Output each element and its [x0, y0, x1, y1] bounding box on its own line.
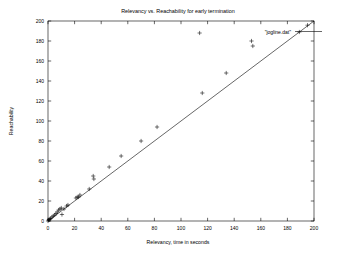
y-tick-label: 80: [38, 138, 44, 144]
y-axis-label: Reachability: [8, 106, 14, 135]
y-tick-label: 120: [36, 98, 45, 104]
x-tick-label: 120: [203, 225, 212, 231]
y-tick-label: 20: [38, 198, 44, 204]
legend-label-jogline: "jogline.dat": [265, 29, 292, 35]
scatter-plot-canvas: Relevancy vs. Reachability for early ter…: [0, 0, 356, 253]
x-tick-label: 160: [257, 225, 266, 231]
y-tick-label: 0: [41, 218, 44, 224]
x-tick-label: 80: [152, 225, 158, 231]
x-tick-label: 0: [47, 225, 50, 231]
x-tick-label: 180: [283, 225, 292, 231]
x-tick-label: 140: [230, 225, 239, 231]
x-tick-label: 20: [72, 225, 78, 231]
y-tick-label: 100: [36, 118, 45, 124]
y-tick-label: 140: [36, 78, 45, 84]
x-tick-label: 200: [310, 225, 319, 231]
y-tick-label: 180: [36, 38, 45, 44]
x-axis-label: Relevancy, time in seconds: [147, 239, 210, 245]
y-tick-label: 160: [36, 58, 45, 64]
gnuplot-figure: Relevancy vs. Reachability for early ter…: [0, 0, 356, 253]
y-tick-label: 60: [38, 158, 44, 164]
y-tick-label: 40: [38, 178, 44, 184]
y-tick-label: 200: [36, 18, 45, 24]
x-tick-label: 100: [177, 225, 186, 231]
x-tick-label: 40: [98, 225, 104, 231]
x-tick-label: 60: [125, 225, 131, 231]
chart-title: Relevancy vs. Reachability for early ter…: [121, 8, 235, 14]
